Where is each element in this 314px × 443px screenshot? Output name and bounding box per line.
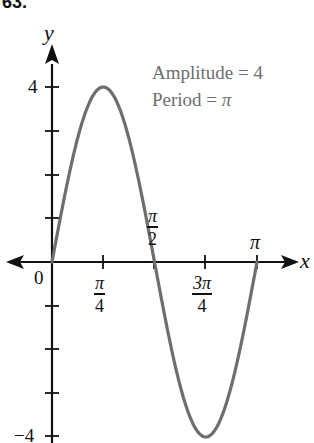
period-value: π [222, 89, 232, 110]
origin-label: 0 [34, 268, 44, 287]
fraction-denominator: 4 [198, 297, 207, 315]
fraction-numerator: π [147, 207, 158, 225]
fraction-denominator: 4 [95, 297, 104, 315]
y-tick-label-neg4: −4 [14, 426, 34, 443]
period-prefix: Period = [152, 89, 222, 110]
y-axis-label: y [44, 22, 54, 44]
x-tick-label-pi: π [250, 232, 260, 252]
x-axis-label: x [300, 250, 310, 272]
x-tick-label-pi-over-4: π 4 [94, 274, 105, 315]
y-tick-label-4: 4 [28, 77, 38, 96]
fraction-bar [192, 293, 212, 295]
amplitude-annotation: Amplitude = 4 [152, 63, 263, 82]
fraction-bar [94, 293, 105, 295]
fraction-numerator: π [94, 274, 105, 292]
x-tick-label-3pi-over-4: 3π 4 [192, 274, 212, 315]
y-axis-up-arrow-icon [45, 44, 59, 64]
fraction-bar [147, 226, 158, 228]
period-annotation: Period = π [152, 90, 231, 109]
fraction-denominator: 2 [148, 230, 157, 248]
x-tick-label-pi-over-2: π 2 [147, 207, 158, 248]
fraction-numerator: 3π [192, 274, 212, 292]
